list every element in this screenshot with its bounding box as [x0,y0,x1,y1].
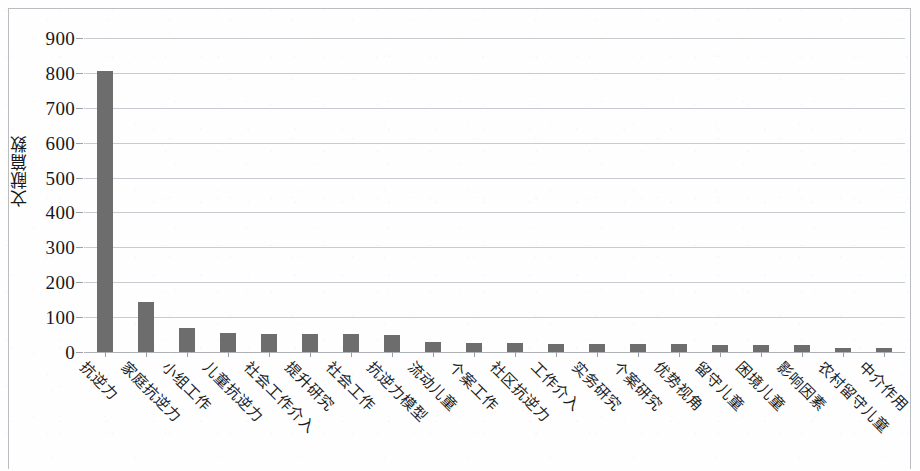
bar [671,344,687,352]
y-axis-tick-label: 100 [46,308,75,327]
gridline [84,38,905,39]
bar [794,345,810,352]
bar [589,344,605,352]
gridline [84,73,905,74]
bar [548,344,564,352]
y-axis-tick-mark [76,317,83,318]
y-axis-tick-label: 0 [65,343,75,362]
y-axis-tick-label: 500 [46,169,75,188]
y-axis-tick-mark [76,73,83,74]
y-axis-tick-label: 700 [46,99,75,118]
gridline [84,178,905,179]
bar [302,334,318,352]
y-axis-tick-label: 600 [46,134,75,153]
gridline [84,143,905,144]
x-axis-tick-labels: 抗逆力家庭抗逆力小组工作儿童抗逆力社会工作介入提升研究社会工作抗逆力模型流动儿童… [84,356,920,471]
gridline [84,352,905,353]
bar [630,344,646,352]
gridline [84,282,905,283]
bar [507,343,523,352]
bar-chart-figure: 文献篇数 9008007006005004003002001000 抗逆力家庭抗… [0,0,920,471]
bar [343,334,359,352]
bar [220,333,236,352]
y-axis-tick-mark [76,143,83,144]
y-axis-tick-label: 800 [46,64,75,83]
gridline [84,212,905,213]
y-axis-tick-mark [76,108,83,109]
gridline [84,108,905,109]
bar [138,302,154,352]
y-axis-tick-mark [76,38,83,39]
bar [179,328,195,352]
bar [384,335,400,352]
bar [753,345,769,352]
bar [712,345,728,352]
y-axis-tick-mark [76,178,83,179]
gridline [84,317,905,318]
y-axis-tick-label: 400 [46,203,75,222]
bar [97,71,113,352]
y-axis-tick-mark [76,352,83,353]
bar [261,334,277,352]
y-axis-tick-label: 200 [46,273,75,292]
y-axis-tick-label: 300 [46,238,75,257]
plot-area [84,38,905,352]
y-axis-tick-mark [76,282,83,283]
y-axis-tick-label: 900 [46,29,75,48]
y-axis-tick-labels: 9008007006005004003002001000 [20,38,75,352]
y-axis-tick-mark [76,247,83,248]
bar [425,342,441,352]
gridline [84,247,905,248]
y-axis-tick-mark [76,212,83,213]
bar [466,343,482,352]
